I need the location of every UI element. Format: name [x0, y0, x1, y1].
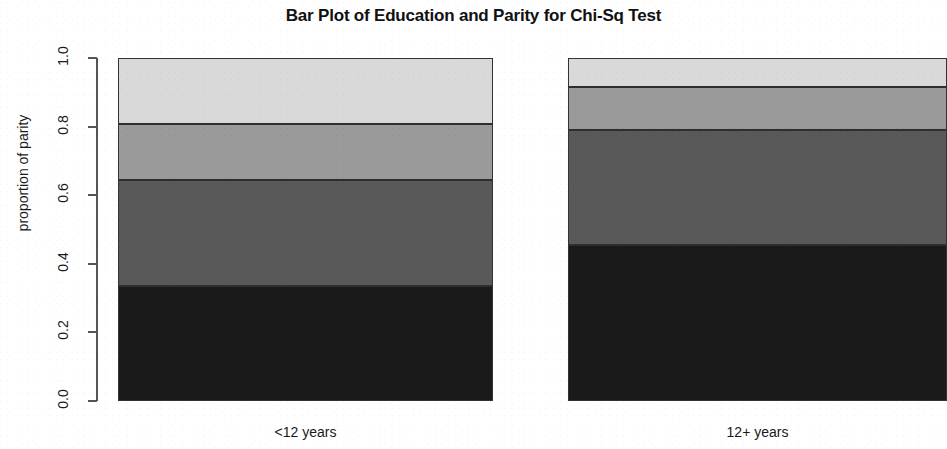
y-axis-tick-label: 0.0 [55, 382, 71, 416]
x-axis-category-label: <12 years [118, 424, 493, 440]
y-axis-tick-label: 0.8 [55, 108, 71, 142]
bar-segment [118, 180, 493, 285]
y-axis-tick-label: 0.4 [55, 245, 71, 279]
y-axis-tick-label: 1.0 [55, 39, 71, 73]
y-axis-tick-mark [88, 126, 97, 128]
stacked-bar [568, 58, 947, 401]
y-axis-tick-label: 0.2 [55, 313, 71, 347]
bar-segment [568, 130, 947, 244]
y-axis-tick-label-wrap: 1.0 [46, 48, 80, 68]
y-axis-tick-label: 0.6 [55, 176, 71, 210]
y-axis-tick-label-wrap: 0.2 [46, 322, 80, 342]
bar-segment [568, 58, 947, 87]
x-axis-category-label: 12+ years [568, 424, 947, 440]
y-axis-line [96, 58, 98, 401]
y-axis-tick-mark [88, 331, 97, 333]
bar-segment [118, 286, 493, 401]
y-axis-tick-mark [88, 194, 97, 196]
y-axis-tick-label-wrap: 0.4 [46, 254, 80, 274]
stacked-bar [118, 58, 493, 401]
y-axis-tick-label-wrap: 0.6 [46, 185, 80, 205]
y-axis-tick-mark [88, 263, 97, 265]
y-axis-tick-mark [88, 400, 97, 402]
bar-segment [568, 245, 947, 401]
y-axis-title: proportion of parity [15, 83, 31, 263]
y-axis-tick-label-wrap: 0.0 [46, 391, 80, 411]
bar-segment [118, 58, 493, 124]
bar-chart-plot: Bar Plot of Education and Parity for Chi… [0, 0, 947, 449]
bar-segment [118, 124, 493, 180]
y-axis-tick-label-wrap: 0.8 [46, 117, 80, 137]
y-axis-tick-mark [88, 57, 97, 59]
bar-segment [568, 87, 947, 130]
chart-title: Bar Plot of Education and Parity for Chi… [0, 6, 947, 26]
